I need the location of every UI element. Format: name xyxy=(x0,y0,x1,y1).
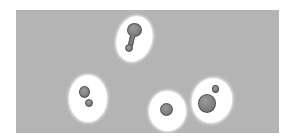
cell-2-mother xyxy=(79,86,90,98)
cell-4-bud xyxy=(212,85,219,93)
cell-4-mother xyxy=(198,94,216,113)
cell-1-bud xyxy=(125,44,133,52)
cell-2-bud xyxy=(85,99,93,107)
cell-3 xyxy=(160,103,173,116)
